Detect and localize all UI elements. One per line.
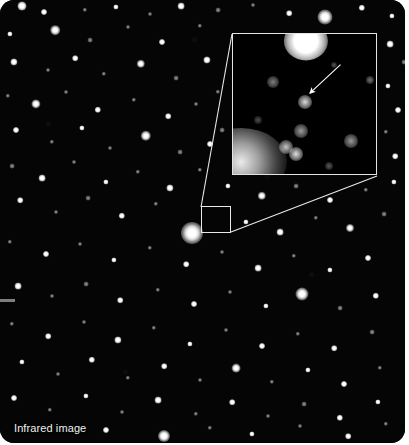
star [370,330,375,335]
star [159,39,165,45]
star [216,8,221,13]
star [395,107,401,113]
star [318,10,333,25]
star [43,251,49,257]
star [392,153,398,159]
star [220,128,225,133]
star [277,229,284,236]
inset-source [325,162,333,170]
infrared-image-figure: Infrared image [0,0,409,445]
star [346,224,354,232]
star [191,301,197,307]
star [232,364,241,373]
star [181,222,203,244]
inset-source [267,76,279,88]
star [255,265,262,272]
star [46,68,50,72]
star [286,10,292,16]
star [174,76,179,81]
star [327,197,333,203]
star [56,372,60,376]
inset-source [294,124,308,138]
saturated-star-top [284,33,328,61]
source-region-box [201,206,231,233]
star [64,90,68,94]
star [126,25,130,29]
left-edge-tick [0,299,15,302]
star [266,414,270,418]
diffuse-nebulosity [232,128,287,175]
star [41,9,47,15]
star [259,343,265,349]
star [402,60,405,65]
star [103,427,109,433]
star [387,41,394,48]
star [382,212,387,217]
star [120,410,124,414]
star [294,184,299,189]
star [50,25,60,35]
star [82,320,86,324]
star [39,175,46,182]
inset-source [344,134,358,148]
magnified-inset [232,33,377,175]
star [331,345,337,351]
star [302,402,307,407]
inset-source [366,76,374,84]
image-caption: Infrared image [14,422,86,434]
inset-source [289,147,303,161]
sky-image-plate: Infrared image [0,0,405,443]
star [11,395,17,401]
star [72,55,78,61]
inset-source [254,116,262,124]
star [298,424,302,428]
star [155,397,162,404]
star [161,363,167,369]
inset-source [298,95,312,109]
star [108,146,112,150]
star [54,210,58,214]
star [194,102,198,106]
star [45,333,51,339]
star [198,378,202,382]
star [183,261,189,267]
star [220,250,224,254]
inset-source [331,62,337,68]
star [117,297,123,303]
star [296,288,309,301]
star [228,290,232,294]
star [165,113,171,119]
star [341,381,347,387]
star [10,164,15,169]
star [72,160,76,164]
star [158,430,170,442]
star [50,294,54,298]
star [178,3,185,10]
star [251,3,255,7]
star [365,255,371,261]
star [17,197,23,203]
star [86,196,91,201]
star [207,141,213,147]
star [78,242,82,246]
star [338,306,343,311]
star [13,127,19,133]
star [88,38,93,43]
star [15,283,22,290]
star [148,12,152,16]
star [345,433,351,439]
star [229,399,235,405]
star [224,328,228,332]
star [18,2,27,11]
star [178,150,183,155]
star [84,282,89,287]
